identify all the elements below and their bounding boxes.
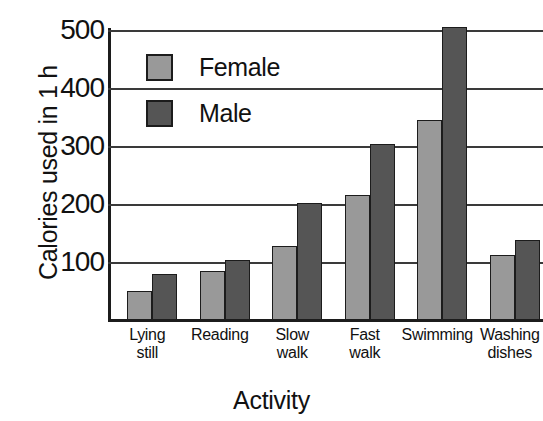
legend-label-male: Male bbox=[199, 101, 252, 126]
bar-male-3 bbox=[370, 144, 395, 320]
y-tick-label-200: 200 bbox=[38, 190, 104, 218]
plot-area: FemaleMale bbox=[108, 28, 543, 322]
bar-male-2 bbox=[297, 203, 322, 320]
bar-female-1 bbox=[200, 271, 225, 320]
x-axis-title: Activity bbox=[0, 386, 543, 415]
legend-swatch-female bbox=[146, 54, 173, 81]
bar-chart: Calories used in 1 h 100200300400500 Fem… bbox=[0, 0, 543, 421]
y-tick-label-400: 400 bbox=[38, 74, 104, 102]
bar-female-4 bbox=[417, 120, 442, 320]
bar-male-1 bbox=[225, 260, 250, 320]
legend-swatch-male bbox=[146, 100, 173, 127]
bar-group bbox=[474, 28, 543, 320]
legend-item-male: Male bbox=[146, 90, 376, 136]
bar-female-5 bbox=[490, 255, 515, 320]
bar-female-2 bbox=[272, 246, 297, 320]
y-tick-label-100: 100 bbox=[38, 248, 104, 276]
bar-male-4 bbox=[442, 27, 467, 320]
bar-group bbox=[401, 28, 474, 320]
x-tick-label-5: Washing dishes bbox=[466, 326, 543, 362]
bar-male-0 bbox=[152, 274, 177, 320]
bar-female-3 bbox=[345, 195, 370, 320]
legend-item-female: Female bbox=[146, 44, 376, 90]
bar-female-0 bbox=[127, 291, 152, 320]
y-tick-label-300: 300 bbox=[38, 132, 104, 160]
x-axis-tick-labels: Lying stillReadingSlow walkFast walkSwim… bbox=[108, 326, 543, 372]
legend: FemaleMale bbox=[146, 44, 376, 136]
bar-male-5 bbox=[515, 240, 540, 320]
y-axis-tick-labels: 100200300400500 bbox=[34, 0, 104, 421]
legend-label-female: Female bbox=[199, 55, 280, 80]
y-tick-label-500: 500 bbox=[38, 16, 104, 44]
